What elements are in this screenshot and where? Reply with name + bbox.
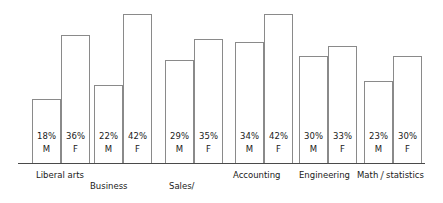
bar-gender-label: M <box>165 144 194 154</box>
bar-value-label: 33% <box>328 131 357 141</box>
bar-gender-label: M <box>94 144 123 154</box>
slash-separator: / <box>378 171 386 180</box>
category-label-business-administration: Business administration <box>90 170 152 203</box>
category-label-line1: Business <box>90 181 127 191</box>
bar-gender-label: M <box>299 144 328 154</box>
bar-gender-label: F <box>194 144 223 154</box>
bar-gender-label: M <box>32 144 61 154</box>
category-label-liberal-arts: Liberal arts <box>36 170 84 181</box>
bar-value-label: 42% <box>123 131 152 141</box>
bar-value-label: 30% <box>393 131 422 141</box>
category-label-line1: Sales/ <box>169 181 195 191</box>
category-label-sales-marketing: Sales/ marketing <box>169 170 212 203</box>
bar-gender-label: M <box>235 144 264 154</box>
bar-gender-label: F <box>393 144 422 154</box>
bar-chart: 18% 36% 22% 42% 29% 35% 34% 42% 30% 33% … <box>0 0 443 203</box>
bar-value-label: 42% <box>264 131 293 141</box>
bar-value-label: 18% <box>32 131 61 141</box>
bar-gender-label: F <box>61 144 90 154</box>
bar-value-label: 30% <box>299 131 328 141</box>
plot-area: 18% 36% 22% 42% 29% 35% 34% 42% 30% 33% … <box>0 0 443 203</box>
bar-value-label: 36% <box>61 131 90 141</box>
category-label-accounting: Accounting <box>233 170 280 181</box>
bar-gender-label: F <box>123 144 152 154</box>
bar-gender-label: F <box>264 144 293 154</box>
x-axis-line <box>18 163 425 164</box>
bar-gender-label: M <box>364 144 393 154</box>
bar-value-label: 29% <box>165 131 194 141</box>
bar-gender-label: F <box>328 144 357 154</box>
bar-value-label: 22% <box>94 131 123 141</box>
category-label-engineering: Engineering <box>299 170 350 181</box>
category-label-part1: Math <box>357 170 378 180</box>
bar-value-label: 23% <box>364 131 393 141</box>
bar-value-label: 35% <box>194 131 223 141</box>
category-label-part2: statistics <box>386 170 424 180</box>
category-label-math-statistics: Math/statistics <box>357 170 424 181</box>
bar-value-label: 34% <box>235 131 264 141</box>
